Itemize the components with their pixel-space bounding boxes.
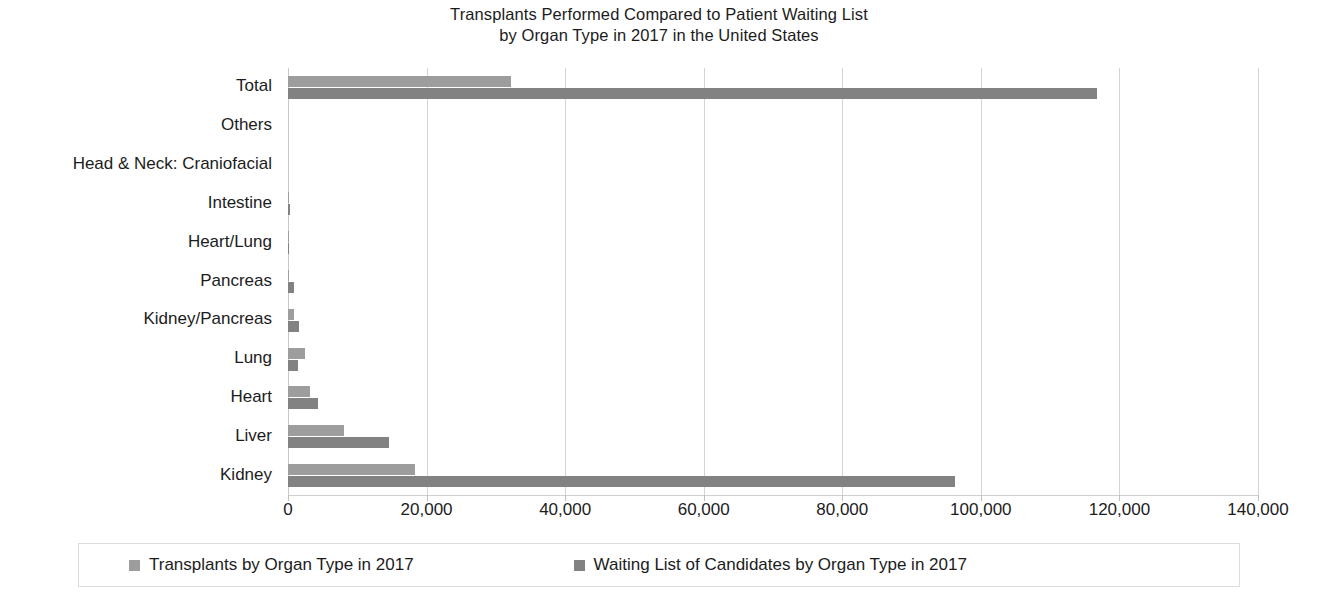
bar-kidney-pancreas-series-0 xyxy=(288,309,294,320)
y-axis-category-labels: TotalOthersHead & Neck: CraniofacialInte… xyxy=(0,68,280,495)
y-axis-label-others: Others xyxy=(0,115,280,135)
chart-legend: Transplants by Organ Type in 2017Waiting… xyxy=(78,543,1240,587)
x-axis-tick-labels: 020,00040,00060,00080,000100,000120,0001… xyxy=(0,500,1318,526)
gridline-100000 xyxy=(981,68,982,495)
bar-kidney-pancreas-series-1 xyxy=(288,321,299,332)
bar-pancreas-series-1 xyxy=(288,282,294,293)
bar-liver-series-0 xyxy=(288,425,344,436)
y-axis-label-lung: Lung xyxy=(0,348,280,368)
bar-liver-series-1 xyxy=(288,437,389,448)
y-axis-label-heart: Heart xyxy=(0,387,280,407)
bar-lung-series-1 xyxy=(288,360,298,371)
legend-swatch-icon xyxy=(574,560,585,571)
bar-kidney-series-1 xyxy=(288,476,955,487)
legend-swatch-icon xyxy=(129,560,140,571)
x-axis-line xyxy=(288,495,1258,496)
bar-total-series-0 xyxy=(288,76,511,87)
legend-item-0[interactable]: Transplants by Organ Type in 2017 xyxy=(129,555,414,575)
gridline-120000 xyxy=(1119,68,1120,495)
legend-item-label: Waiting List of Candidates by Organ Type… xyxy=(594,555,967,575)
gridline-60000 xyxy=(704,68,705,495)
x-tick-label: 100,000 xyxy=(950,500,1011,520)
y-axis-label-kidney-pancreas: Kidney/Pancreas xyxy=(0,309,280,329)
y-axis-label-heart-lung: Heart/Lung xyxy=(0,232,280,252)
x-tick-label: 40,000 xyxy=(539,500,591,520)
x-tick-label: 60,000 xyxy=(678,500,730,520)
gridline-40000 xyxy=(565,68,566,495)
plot-area xyxy=(288,68,1258,495)
bar-pancreas-series-0 xyxy=(288,270,289,281)
y-axis-label-liver: Liver xyxy=(0,426,280,446)
x-tick-label: 140,000 xyxy=(1227,500,1288,520)
y-axis-label-intestine: Intestine xyxy=(0,193,280,213)
bar-lung-series-0 xyxy=(288,348,305,359)
y-axis-label-pancreas: Pancreas xyxy=(0,271,280,291)
y-axis-label-head-neck-craniofacial: Head & Neck: Craniofacial xyxy=(0,154,280,174)
gridline-20000 xyxy=(427,68,428,495)
bar-heart-series-0 xyxy=(288,386,310,397)
legend-item-1[interactable]: Waiting List of Candidates by Organ Type… xyxy=(574,555,967,575)
y-axis-label-total: Total xyxy=(0,76,280,96)
chart-plot-wrapper: TotalOthersHead & Neck: CraniofacialInte… xyxy=(0,0,1318,604)
x-tick-label: 120,000 xyxy=(1089,500,1150,520)
legend-item-label: Transplants by Organ Type in 2017 xyxy=(149,555,414,575)
bar-intestine-series-0 xyxy=(288,192,289,203)
bar-kidney-series-0 xyxy=(288,464,415,475)
bar-intestine-series-1 xyxy=(288,204,290,215)
x-tick-label: 0 xyxy=(283,500,292,520)
x-tick-label: 80,000 xyxy=(816,500,868,520)
gridline-140000 xyxy=(1258,68,1259,495)
y-axis-label-kidney: Kidney xyxy=(0,465,280,485)
bar-total-series-1 xyxy=(288,88,1097,99)
bar-heart-series-1 xyxy=(288,398,318,409)
x-tick-label: 20,000 xyxy=(401,500,453,520)
gridline-80000 xyxy=(842,68,843,495)
